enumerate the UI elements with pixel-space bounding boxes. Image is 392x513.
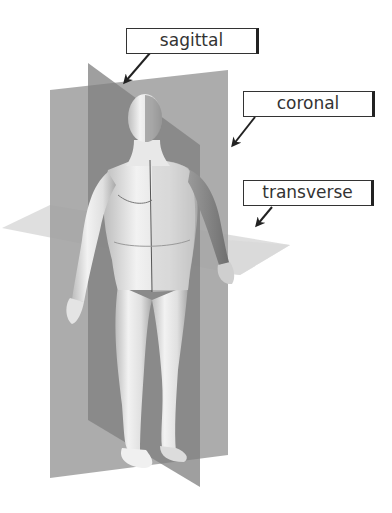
sagittal-arrow: [125, 53, 150, 82]
anatomical-planes-diagram: sagittal coronal transverse: [0, 0, 392, 513]
transverse-arrow: [257, 207, 272, 225]
sagittal-label: sagittal: [126, 28, 259, 54]
transverse-label: transverse: [243, 180, 374, 206]
coronal-label: coronal: [243, 91, 375, 117]
diagram-graphic: [0, 0, 392, 513]
coronal-arrow: [233, 117, 255, 145]
transverse-plane-front: [228, 240, 290, 275]
